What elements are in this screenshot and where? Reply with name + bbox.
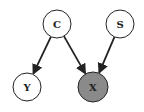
node-label: S (116, 19, 123, 30)
node-x: X (78, 72, 108, 102)
node-label: Y (22, 82, 31, 93)
graphical-model-diagram: CSYX (0, 0, 144, 112)
node-label: C (53, 19, 61, 30)
edge-c-to-x (64, 36, 85, 73)
edge-s-to-x (99, 37, 114, 72)
edge-c-to-y (33, 37, 51, 74)
node-y: Y (13, 73, 41, 101)
node-label: X (89, 82, 97, 93)
node-s: S (106, 10, 134, 38)
node-c: C (43, 10, 71, 38)
diagram-canvas: CSYX (0, 0, 144, 112)
